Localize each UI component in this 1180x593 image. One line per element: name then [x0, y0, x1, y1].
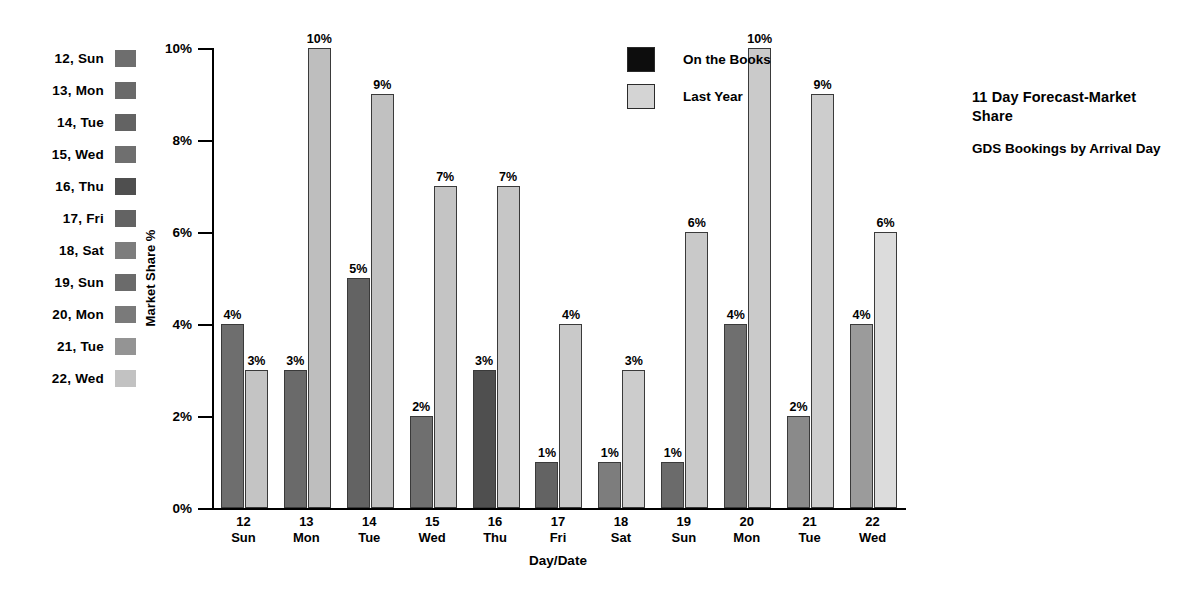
date-legend-swatch	[115, 338, 136, 355]
x-tick-label-day-number: 21	[778, 514, 841, 530]
bar-last-year: 9%	[811, 94, 834, 508]
bar-value-label: 1%	[538, 446, 556, 460]
bar-value-label: 4%	[562, 308, 580, 322]
bar-group: 1%4%	[527, 48, 590, 508]
x-tick-label-day-name: Tue	[778, 530, 841, 546]
y-tick-mark	[198, 508, 212, 510]
x-tick-label-day-number: 14	[338, 514, 401, 530]
y-tick-label: 8%	[172, 133, 192, 148]
y-tick-mark	[198, 232, 212, 234]
bar-on-the-books: 4%	[221, 324, 244, 508]
y-tick-mark	[198, 416, 212, 418]
date-legend-swatch	[115, 274, 136, 291]
bar-group: 1%3%	[589, 48, 652, 508]
bar-value-label: 1%	[601, 446, 619, 460]
bar-on-the-books: 4%	[850, 324, 873, 508]
bar-on-the-books: 2%	[787, 416, 810, 508]
bar-group: 5%9%	[338, 48, 401, 508]
x-tick-label-day-name: Mon	[275, 530, 338, 546]
date-legend-item: 18, Sat	[0, 234, 160, 266]
bar-group: 4%10%	[715, 48, 778, 508]
x-tick-label: 20Mon	[715, 514, 778, 546]
date-legend-label: 22, Wed	[52, 371, 104, 386]
bar-group: 2%7%	[401, 48, 464, 508]
bar-value-label: 4%	[223, 308, 241, 322]
date-legend: 12, Sun13, Mon14, Tue15, Wed16, Thu17, F…	[0, 42, 160, 394]
bar-on-the-books: 1%	[535, 462, 558, 508]
bar-value-label: 7%	[499, 170, 517, 184]
x-tick-label: 17Fri	[527, 514, 590, 546]
x-tick-label-day-number: 19	[652, 514, 715, 530]
series-legend-swatch	[627, 47, 655, 72]
bar-group: 4%3%	[212, 48, 275, 508]
bar-last-year: 3%	[245, 370, 268, 508]
date-legend-item: 14, Tue	[0, 106, 160, 138]
x-axis-line	[212, 508, 906, 510]
bar-last-year: 4%	[559, 324, 582, 508]
y-tick-label: 0%	[172, 501, 192, 516]
x-axis-title: Day/Date	[212, 553, 904, 568]
y-tick-label: 6%	[172, 225, 192, 240]
bar-on-the-books: 2%	[410, 416, 433, 508]
bar-value-label: 9%	[814, 78, 832, 92]
bar-last-year: 10%	[308, 48, 331, 508]
series-legend-label: Last Year	[683, 89, 743, 104]
x-tick-label-day-number: 22	[841, 514, 904, 530]
y-tick-mark	[198, 140, 212, 142]
bar-group: 2%9%	[778, 48, 841, 508]
chart-title: 11 Day Forecast-Market Share	[972, 88, 1162, 126]
series-legend-item: Last Year	[627, 78, 771, 115]
x-tick-label-day-number: 15	[401, 514, 464, 530]
y-tick-label: 4%	[172, 317, 192, 332]
date-legend-swatch	[115, 178, 136, 195]
bar-value-label: 9%	[373, 78, 391, 92]
chart-title-block: 11 Day Forecast-Market Share GDS Booking…	[972, 88, 1162, 158]
x-tick-label-day-number: 12	[212, 514, 275, 530]
bar-on-the-books: 3%	[473, 370, 496, 508]
y-axis-label-text: Market Share %	[143, 230, 158, 327]
date-legend-label: 12, Sun	[55, 51, 104, 66]
date-legend-item: 20, Mon	[0, 298, 160, 330]
bar-last-year: 9%	[371, 94, 394, 508]
x-tick-label: 13Mon	[275, 514, 338, 546]
x-tick-label-day-number: 20	[715, 514, 778, 530]
x-tick-label: 21Tue	[778, 514, 841, 546]
date-legend-item: 22, Wed	[0, 362, 160, 394]
bar-last-year: 3%	[622, 370, 645, 508]
bar-value-label: 4%	[727, 308, 745, 322]
x-tick-label-day-number: 18	[589, 514, 652, 530]
bar-value-label: 10%	[307, 32, 332, 46]
x-tick-label-day-name: Sun	[212, 530, 275, 546]
x-tick-label-day-name: Thu	[464, 530, 527, 546]
chart-subtitle: GDS Bookings by Arrival Day	[972, 139, 1162, 158]
bar-on-the-books: 4%	[724, 324, 747, 508]
bar-on-the-books: 1%	[661, 462, 684, 508]
y-tick-mark	[198, 324, 212, 326]
date-legend-swatch	[115, 306, 136, 323]
chart-page: 12, Sun13, Mon14, Tue15, Wed16, Thu17, F…	[0, 0, 1180, 593]
x-tick-label-day-name: Fri	[527, 530, 590, 546]
date-legend-swatch	[115, 210, 136, 227]
bar-value-label: 3%	[475, 354, 493, 368]
date-legend-label: 15, Wed	[52, 147, 104, 162]
bar-last-year: 10%	[748, 48, 771, 508]
bar-last-year: 7%	[434, 186, 457, 508]
bar-on-the-books: 1%	[598, 462, 621, 508]
bar-last-year: 7%	[497, 186, 520, 508]
x-tick-label: 12Sun	[212, 514, 275, 546]
x-tick-label-day-name: Wed	[841, 530, 904, 546]
date-legend-label: 14, Tue	[57, 115, 104, 130]
bar-group: 3%10%	[275, 48, 338, 508]
plot-area: 0%2%4%6%8%10% 4%3%3%10%5%9%2%7%3%7%1%4%1…	[212, 48, 904, 508]
date-legend-item: 19, Sun	[0, 266, 160, 298]
bar-value-label: 5%	[349, 262, 367, 276]
bar-on-the-books: 5%	[347, 278, 370, 508]
date-legend-swatch	[115, 50, 136, 67]
series-legend-swatch	[627, 84, 655, 109]
x-tick-label-day-name: Wed	[401, 530, 464, 546]
bar-last-year: 6%	[874, 232, 897, 508]
date-legend-item: 16, Thu	[0, 170, 160, 202]
bar-value-label: 7%	[436, 170, 454, 184]
bar-value-label: 1%	[664, 446, 682, 460]
y-axis-label: Market Share %	[140, 48, 160, 508]
